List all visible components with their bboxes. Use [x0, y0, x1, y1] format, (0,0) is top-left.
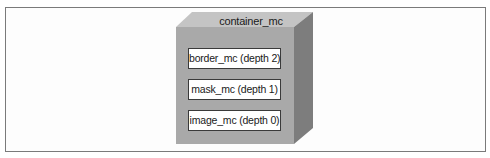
layer-box-image: image_mc (depth 0) — [188, 110, 281, 131]
cube-side-face — [294, 12, 313, 144]
container-label: container_mc — [192, 15, 310, 27]
layer-box-border: border_mc (depth 2) — [188, 48, 281, 69]
layer-box-mask: mask_mc (depth 1) — [188, 79, 281, 100]
